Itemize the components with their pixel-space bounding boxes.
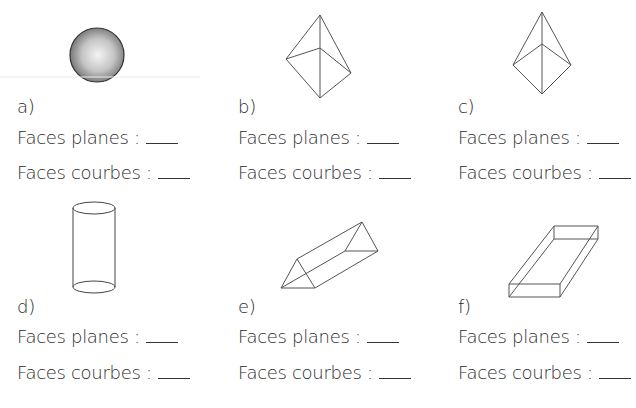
flat-faces-row: Faces planes : [238,326,399,347]
curved-faces-answer-blank[interactable] [379,377,411,379]
curved-faces-row: Faces courbes : [238,362,411,383]
curved-faces-answer-blank[interactable] [599,377,631,379]
flat-faces-label: Faces planes : [17,127,140,148]
flat-faces-label: Faces planes : [458,326,581,347]
rectangular-prism-icon [509,226,598,297]
cylinder-icon [73,202,115,293]
curved-faces-answer-blank[interactable] [379,177,411,179]
curved-faces-row: Faces courbes : [458,162,631,183]
item-letter: d) [17,296,35,317]
flat-faces-row: Faces planes : [17,326,178,347]
item-letter: b) [238,96,256,117]
curved-faces-label: Faces courbes : [17,162,152,183]
flat-faces-answer-blank[interactable] [146,142,178,144]
flat-faces-row: Faces planes : [458,127,619,148]
curved-faces-label: Faces courbes : [17,362,152,383]
curved-faces-answer-blank[interactable] [158,177,190,179]
curved-faces-row: Faces courbes : [238,162,411,183]
item-letter: e) [238,296,256,317]
pyramid-icon [513,12,571,94]
flat-faces-answer-blank[interactable] [367,142,399,144]
curved-faces-row: Faces courbes : [458,362,631,383]
item-letter: f) [458,296,471,317]
triangular-prism-icon [281,222,378,288]
flat-faces-row: Faces planes : [458,326,619,347]
curved-faces-label: Faces courbes : [238,362,373,383]
curved-faces-row: Faces courbes : [17,362,190,383]
flat-faces-answer-blank[interactable] [587,341,619,343]
flat-faces-row: Faces planes : [17,127,178,148]
flat-faces-answer-blank[interactable] [146,341,178,343]
pyramid-icon [286,15,351,98]
curved-faces-row: Faces courbes : [17,162,190,183]
item-letter: a) [17,96,34,117]
flat-faces-label: Faces planes : [17,326,140,347]
curved-faces-label: Faces courbes : [458,362,593,383]
flat-faces-row: Faces planes : [238,127,399,148]
curved-faces-answer-blank[interactable] [158,377,190,379]
flat-faces-label: Faces planes : [458,127,581,148]
item-letter: c) [458,96,474,117]
flat-faces-label: Faces planes : [238,127,361,148]
sphere-icon [70,28,124,82]
curved-faces-answer-blank[interactable] [599,177,631,179]
curved-faces-label: Faces courbes : [238,162,373,183]
flat-faces-label: Faces planes : [238,326,361,347]
flat-faces-answer-blank[interactable] [587,142,619,144]
curved-faces-label: Faces courbes : [458,162,593,183]
flat-faces-answer-blank[interactable] [367,341,399,343]
